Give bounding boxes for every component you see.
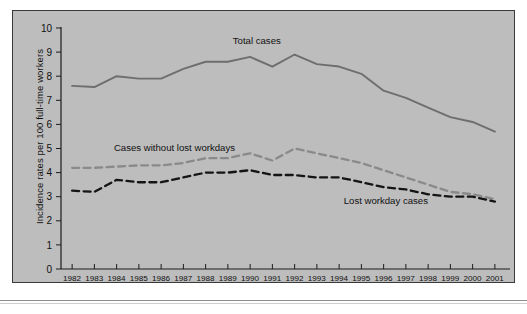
y-tick-label: 8	[46, 71, 52, 82]
series-label-lost-workday-cases: Lost workday cases	[344, 195, 428, 206]
y-tick-label: 10	[41, 23, 53, 34]
y-tick-label: 7	[46, 95, 52, 106]
x-tick-label: 1995	[352, 274, 371, 283]
x-tick-label: 1982	[63, 274, 82, 283]
y-tick-label: 1	[46, 240, 52, 251]
series-line-total-cases	[72, 55, 495, 132]
y-tick-label: 5	[46, 143, 52, 154]
x-tick-label: 1990	[241, 274, 260, 283]
series-label-total-cases: Total cases	[233, 35, 281, 46]
y-tick-label: 2	[46, 215, 52, 226]
x-tick-label: 1989	[219, 274, 238, 283]
x-tick-label: 1999	[441, 274, 460, 283]
x-tick-label: 1983	[85, 274, 104, 283]
y-tick-label: 0	[46, 264, 52, 275]
y-tick-label: 4	[46, 167, 52, 178]
figure-container: Incidence rates per 100 full-time worker…	[0, 0, 527, 314]
x-tick-label: 1992	[286, 274, 305, 283]
x-tick-label: 2001	[486, 274, 505, 283]
y-axis-ticks: 012345678910	[41, 23, 61, 275]
series-lines	[72, 55, 495, 202]
series-label-cases-without-lost-workdays: Cases without lost workdays	[114, 142, 235, 153]
x-tick-label: 1988	[197, 274, 216, 283]
x-tick-label: 1987	[174, 274, 193, 283]
footer-divider-dark	[0, 300, 527, 301]
footer-divider-light	[0, 303, 527, 304]
line-chart: 012345678910 198219831984198519861987198…	[13, 11, 516, 284]
series-line-cases-without-lost-workdays	[72, 149, 495, 200]
x-tick-label: 2000	[464, 274, 483, 283]
x-axis-ticks	[72, 264, 495, 269]
series-annotations: Total casesCases without lost workdaysLo…	[114, 35, 428, 206]
x-tick-label: 1986	[152, 274, 171, 283]
x-tick-label: 1998	[419, 274, 438, 283]
x-tick-label: 1997	[397, 274, 416, 283]
y-tick-label: 3	[46, 191, 52, 202]
x-tick-label: 1993	[308, 274, 327, 283]
x-tick-label: 1994	[330, 274, 349, 283]
y-tick-label: 9	[46, 47, 52, 58]
y-tick-label: 6	[46, 119, 52, 130]
x-tick-label: 1996	[375, 274, 394, 283]
chart-panel: Incidence rates per 100 full-time worker…	[12, 10, 515, 283]
x-tick-label: 1991	[263, 274, 282, 283]
x-tick-label: 1984	[108, 274, 127, 283]
x-tick-label: 1985	[130, 274, 149, 283]
x-axis-tick-labels: 1982198319841985198619871988198919901991…	[63, 274, 504, 283]
